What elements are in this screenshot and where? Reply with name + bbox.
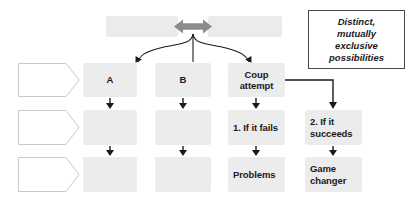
node-column-a-row-2 bbox=[83, 110, 137, 145]
callout-line-3: exclusive bbox=[329, 40, 384, 52]
node-column-a-row-3 bbox=[83, 157, 137, 192]
callout-line-2: mutually bbox=[329, 28, 384, 40]
branch-curves bbox=[138, 34, 249, 62]
arrowhead-column-succeeds-2-3 bbox=[329, 150, 337, 156]
arrowhead-column-b-2-3 bbox=[179, 150, 187, 156]
node-column-b-row-2 bbox=[155, 110, 211, 145]
node-column-succeeds-row-2: 2. If it succeeds bbox=[305, 110, 362, 145]
callout-line-1: Distinct, bbox=[329, 16, 384, 28]
row-label-chevron-2 bbox=[18, 110, 80, 149]
header-box-left-blurred-text bbox=[106, 16, 178, 37]
double-headed-arrow-icon bbox=[174, 20, 212, 34]
callout-line-4: possibilities bbox=[329, 52, 384, 64]
node-column-coup-row-1: Coup attempt bbox=[228, 63, 285, 97]
callout-text: Distinct, mutually exclusive possibiliti… bbox=[329, 16, 384, 64]
arrowhead-column-a-2-3 bbox=[106, 150, 114, 156]
node-column-succeeds-row-3: Game changer bbox=[305, 157, 362, 192]
elbow-connector-coup-to-succeeds bbox=[285, 80, 333, 103]
callout-box: Distinct, mutually exclusive possibiliti… bbox=[308, 10, 405, 69]
row-label-chevron-3 bbox=[18, 157, 80, 196]
chevron-shape-1 bbox=[18, 63, 80, 97]
row-label-chevron-1 bbox=[18, 63, 80, 101]
arrowhead-succeeds-row-2 bbox=[329, 102, 337, 109]
header-box-right-blurred-text bbox=[208, 16, 282, 37]
diagram-canvas: A B Coup attempt 1. If it fails Problems… bbox=[0, 0, 411, 203]
arrowhead-column-coup-1-2 bbox=[252, 103, 260, 109]
node-column-b-row-3 bbox=[155, 157, 211, 192]
arrowhead-column-b-1-2 bbox=[179, 103, 187, 109]
arrowhead-column-a-1-2 bbox=[106, 103, 114, 109]
node-column-b-row-1: B bbox=[155, 63, 211, 97]
header-box-left bbox=[106, 16, 178, 37]
arrowhead-column-coup-2-3 bbox=[252, 150, 260, 156]
chevron-shape-3 bbox=[18, 157, 80, 192]
chevron-shape-2 bbox=[18, 110, 80, 145]
node-column-coup-row-2: 1. If it fails bbox=[228, 110, 285, 145]
node-column-coup-row-3: Problems bbox=[228, 157, 285, 192]
node-column-a-row-1: A bbox=[83, 63, 137, 97]
header-box-right bbox=[208, 16, 282, 37]
